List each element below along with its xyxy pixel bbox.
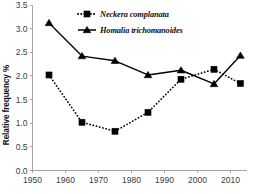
x-tick-label: 1960	[56, 175, 75, 185]
data-point-marker	[79, 119, 85, 125]
legend-label: Homalia trichomanoides	[99, 26, 183, 35]
line-chart: 0.00.51.01.52.02.53.03.5 195019601970198…	[0, 0, 253, 194]
legend-label: Neckera complanata	[99, 10, 169, 19]
x-tick-label: 1950	[23, 175, 42, 185]
data-point-marker	[46, 72, 52, 78]
y-tick-label: 2.0	[16, 71, 28, 81]
y-tick-label: 1.5	[16, 95, 28, 105]
y-axis-title: Relative frequency %	[2, 64, 11, 145]
data-point-marker	[112, 128, 118, 134]
data-point-marker	[211, 66, 217, 72]
data-point-marker	[237, 80, 243, 86]
x-tick-label: 1980	[122, 175, 141, 185]
y-tick-label: 3.5	[16, 0, 28, 10]
y-tick-label: 1.0	[16, 118, 28, 128]
data-point-marker	[178, 76, 184, 82]
square-marker-icon	[84, 11, 90, 17]
x-tick-label: 2010	[221, 175, 240, 185]
chart-container: 0.00.51.01.52.02.53.03.5 195019601970198…	[0, 0, 253, 194]
data-point-marker	[145, 109, 151, 115]
y-tick-label: 0.5	[16, 142, 28, 152]
y-tick-label: 3.0	[16, 24, 28, 34]
x-tick-label: 1990	[155, 175, 174, 185]
x-tick-label: 1970	[89, 175, 108, 185]
x-tick-label: 2000	[188, 175, 207, 185]
y-tick-label: 2.5	[16, 47, 28, 57]
